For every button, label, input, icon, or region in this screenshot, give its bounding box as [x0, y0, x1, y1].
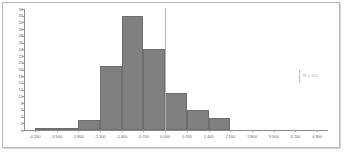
x-axis-tick-label: -2 800: [73, 134, 84, 139]
x-axis-tick-mark: [187, 130, 188, 132]
x-axis-tick-mark: [57, 130, 58, 132]
x-axis-tick-label: 2 800: [247, 134, 257, 139]
y-axis-tick-label: 20: [5, 60, 23, 65]
x-axis-tick-label: 0 000: [160, 134, 170, 139]
y-axis-tick-label: 16: [5, 74, 23, 79]
histogram-bar: [35, 128, 57, 130]
x-axis-tick-mark: [209, 130, 210, 132]
histogram-bar: [78, 120, 100, 130]
y-axis-tick-label: 2: [5, 121, 23, 126]
y-axis-tick-label: 30: [5, 27, 23, 32]
x-axis-tick-label: 4 200: [291, 134, 301, 139]
y-axis-tick-label: 26: [5, 40, 23, 45]
x-axis-tick-mark: [100, 130, 101, 132]
x-axis-tick-mark: [122, 130, 123, 132]
y-axis-tick-label: 36: [5, 7, 23, 12]
x-axis-tick-mark: [252, 130, 253, 132]
x-axis-tick-labels: -4 200-3 500-2 800-2 100-1 400-0 7000 00…: [3, 131, 339, 145]
histogram-bar: [187, 110, 209, 130]
y-axis-tick-label: 4: [5, 114, 23, 119]
histogram-bar: [122, 16, 144, 130]
y-axis-tick-label: 8: [5, 101, 23, 106]
histogram-bar: [143, 49, 165, 130]
y-axis-tick-label: 18: [5, 67, 23, 72]
x-axis-tick-label: -4 200: [29, 134, 40, 139]
annotation-rule: [299, 70, 300, 83]
x-axis-tick-mark: [274, 130, 275, 132]
x-axis-tick-mark: [317, 130, 318, 132]
y-axis-tick-label: 34: [5, 13, 23, 18]
chart-annotation: N = 101: [299, 63, 343, 89]
x-axis-tick-label: -2 100: [95, 134, 106, 139]
y-axis-tick-label: 24: [5, 47, 23, 52]
histogram-bar: [57, 128, 79, 130]
y-axis-tick-label: 28: [5, 33, 23, 38]
x-axis-tick-label: 0 700: [182, 134, 192, 139]
y-axis-tick-labels: 363432302826242220181614121086420: [3, 3, 23, 136]
x-axis-tick-label: 1 400: [204, 134, 214, 139]
x-axis-tick-mark: [143, 130, 144, 132]
x-axis-tick-label: -3 500: [51, 134, 62, 139]
histogram-bar: [100, 66, 122, 130]
reference-line: [165, 8, 166, 131]
x-axis-tick-label: -0 700: [138, 134, 149, 139]
x-axis-tick-mark: [35, 130, 36, 132]
x-axis-tick-mark: [230, 130, 231, 132]
y-axis-tick-label: 12: [5, 87, 23, 92]
y-axis-tick-label: 6: [5, 107, 23, 112]
chart-frame: 363432302826242220181614121086420 -4 200…: [2, 2, 340, 148]
histogram-bar: [209, 118, 231, 130]
x-axis-tick-label: 4 900: [312, 134, 322, 139]
histogram-bars: [24, 9, 328, 130]
x-axis-tick-label: -1 400: [116, 134, 127, 139]
y-axis-tick-label: 22: [5, 54, 23, 59]
x-axis-tick-label: 3 500: [269, 134, 279, 139]
histogram-bar: [165, 93, 187, 130]
x-axis-tick-label: 2 100: [225, 134, 235, 139]
plot-area: 363432302826242220181614121086420 -4 200…: [3, 3, 339, 147]
x-axis-tick-mark: [78, 130, 79, 132]
annotation-label: N = 101: [303, 73, 319, 78]
y-axis-tick-label: 10: [5, 94, 23, 99]
y-axis-tick-label: 14: [5, 80, 23, 85]
y-axis-tick-label: 32: [5, 20, 23, 25]
x-axis-tick-mark: [295, 130, 296, 132]
